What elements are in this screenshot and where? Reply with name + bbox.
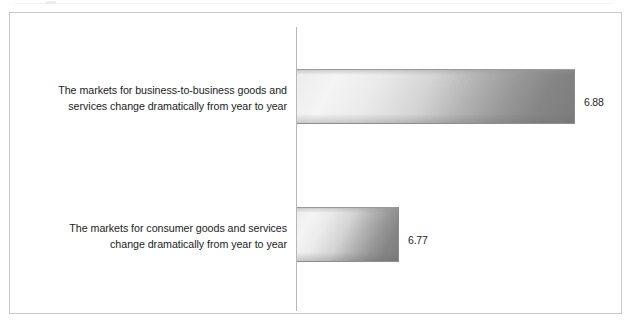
- scan-artifact-line: [14, 3, 614, 4]
- bar-value-label: 6.77: [408, 234, 428, 246]
- bar-series-item[interactable]: [297, 69, 575, 124]
- bar-value-label: 6.88: [584, 96, 604, 108]
- category-label-line: services change dramatically from year t…: [21, 99, 287, 115]
- chart-canvas: 6.88 The markets for business-to-busines…: [0, 0, 632, 327]
- category-label-line: change dramatically from year to year: [21, 237, 287, 253]
- plot-area: 6.88 The markets for business-to-busines…: [10, 13, 621, 313]
- bar-category-label: The markets for consumer goods and servi…: [21, 221, 287, 252]
- scan-artifact-mark: [46, 1, 56, 4]
- chart-plot-frame: 6.88 The markets for business-to-busines…: [9, 12, 622, 314]
- bar-category-label: The markets for business-to-business goo…: [21, 83, 287, 114]
- category-label-line: The markets for consumer goods and servi…: [21, 221, 287, 237]
- category-label-line: The markets for business-to-business goo…: [21, 83, 287, 99]
- bar-series-item[interactable]: [297, 207, 399, 262]
